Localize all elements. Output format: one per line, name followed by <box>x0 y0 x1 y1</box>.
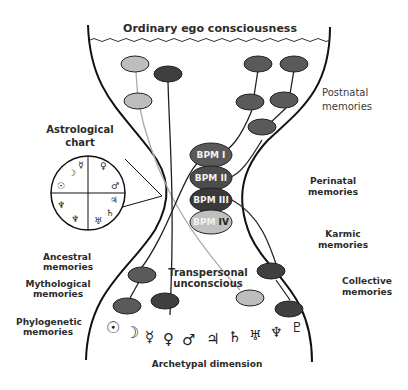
sun-icon: ☉ <box>106 318 120 337</box>
planet-glyph-row: ☉ ☽ ☿ ♀ ♂ ♃ ♄ ♅ ♆ ♇ <box>106 318 304 349</box>
memory-node <box>270 92 298 108</box>
consciousness-diagram: ☽ ☿ ♀ ♂ ☉ ♆ ♆ ♃ ♄ ♅ BPM I BPM II BPM III <box>0 0 408 390</box>
memory-node <box>121 56 149 72</box>
bpm-2-label: BPM II <box>195 173 227 183</box>
archetypal-dimension-label: Archetypal dimension <box>152 359 263 369</box>
memory-node <box>128 267 156 283</box>
mars-icon: ♂ <box>182 331 195 349</box>
chart-glyph-mercury: ☿ <box>78 160 84 170</box>
ancestral-label-1: Ancestral <box>43 252 91 262</box>
saturn-icon: ♄ <box>228 328 241 346</box>
ego-consciousness-title: Ordinary ego consciousness <box>123 22 297 35</box>
astrological-chart: ☽ ☿ ♀ ♂ ☉ ♆ ♆ ♃ ♄ ♅ <box>51 156 162 230</box>
chart-glyph-jupiter: ♃ <box>110 195 118 205</box>
bpm-stack: BPM I BPM II BPM III BPM IV <box>190 143 232 234</box>
memory-node <box>248 119 276 135</box>
jupiter-icon: ♃ <box>206 330 219 348</box>
bpm-1-label: BPM I <box>197 150 226 160</box>
memory-node <box>236 94 264 110</box>
chart-glyph-saturn: ♄ <box>106 208 114 218</box>
perinatal-label-1: Perinatal <box>310 176 356 186</box>
postnatal-label-1: Postnatal <box>322 87 368 98</box>
chart-glyph-mars: ♂ <box>111 181 119 191</box>
memory-node <box>151 293 179 309</box>
collective-label-2: memories <box>342 287 392 297</box>
memory-node <box>275 301 303 317</box>
mythological-label-1: Mythological <box>25 279 90 289</box>
chart-glyph-neptune-2: ♆ <box>71 214 79 224</box>
memory-node <box>280 56 308 72</box>
memory-node <box>124 93 152 109</box>
pluto-icon: ♇ <box>291 319 304 335</box>
neptune-icon: ♆ <box>270 324 283 340</box>
memory-node <box>154 66 182 82</box>
astrological-chart-label-2: chart <box>65 137 95 148</box>
perinatal-label-2: memories <box>308 187 358 197</box>
chart-glyph-neptune-1: ♆ <box>57 200 65 210</box>
chart-glyph-venus: ♀ <box>100 161 107 171</box>
bpm-3-label: BPM III <box>193 195 229 205</box>
postnatal-label-2: memories <box>322 101 372 112</box>
bpm-4-label: BPM IV <box>193 217 229 227</box>
ego-wave-line <box>90 39 330 42</box>
memory-node <box>257 263 285 279</box>
karmic-label-2: memories <box>318 240 368 250</box>
memory-node <box>113 298 141 314</box>
ancestral-label-2: memories <box>43 262 93 272</box>
mythological-label-2: memories <box>33 289 83 299</box>
chart-glyph-moon: ☽ <box>68 168 76 178</box>
phylogenetic-label-2: memories <box>23 327 73 337</box>
uranus-icon: ♅ <box>249 327 262 343</box>
venus-icon: ♀ <box>163 330 174 348</box>
mercury-icon: ☿ <box>145 328 154 346</box>
moon-icon: ☽ <box>125 323 139 342</box>
transpersonal-label-2: unconscious <box>173 278 242 289</box>
astrological-chart-label-1: Astrological <box>46 124 113 135</box>
collective-label-1: Collective <box>342 276 392 286</box>
phylogenetic-label-1: Phylogenetic <box>16 317 82 327</box>
memory-node <box>236 290 264 306</box>
memory-node <box>244 56 272 72</box>
transpersonal-label-1: Transpersonal <box>168 267 247 278</box>
chart-glyph-sun: ☉ <box>57 181 65 191</box>
chart-glyph-uranus: ♅ <box>94 216 102 226</box>
karmic-label-1: Karmic <box>325 229 360 239</box>
